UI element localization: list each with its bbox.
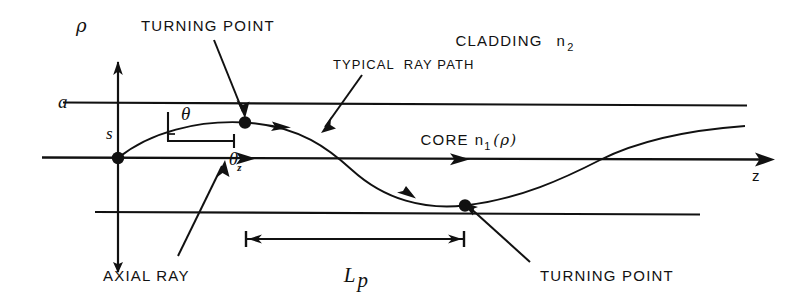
cladding-index-subscript: 2	[567, 41, 573, 53]
bottom-cladding-boundary-line	[95, 212, 700, 215]
figure-canvas: ρ a s θ θz TURNING POINT CLADDINGn2 TYPI…	[0, 0, 810, 306]
turning-point-bottom-label: TURNING POINT	[540, 268, 674, 283]
core-text: CORE	[420, 131, 468, 148]
period-base: L	[344, 263, 356, 287]
theta-z-subscript: z	[237, 161, 241, 173]
axial-ray-label: AXIAL RAY	[103, 268, 190, 283]
theta-label: θ	[181, 104, 190, 123]
top-cladding-boundary-line	[63, 103, 747, 106]
core-radius-label: a	[58, 92, 68, 111]
z-axis-label: z	[752, 168, 761, 183]
rho-axis-label: ρ	[76, 17, 87, 35]
theta-z-label: θz	[211, 133, 242, 184]
ray-direction-arrow-lower	[397, 186, 416, 199]
core-index-subscript: 1	[484, 140, 490, 152]
core-index-argument: (ρ)	[493, 131, 517, 149]
leader-typical-ray-path-arrowhead	[321, 117, 336, 133]
core-region-label: COREn1(ρ)	[399, 117, 517, 163]
arc-length-label: s	[106, 125, 113, 142]
origin-dot	[112, 152, 124, 164]
typical-ray-path-label: TYPICAL RAY PATH	[333, 58, 475, 71]
cladding-text: CLADDING	[455, 32, 542, 49]
leader-turning-point-top	[214, 40, 243, 112]
period-subscript: p	[357, 268, 368, 292]
turning-point-top-label: TURNING POINT	[141, 18, 275, 33]
cladding-index-base: n	[557, 32, 567, 49]
core-index-base: n	[475, 131, 485, 148]
period-length-label: Lp	[326, 249, 366, 302]
